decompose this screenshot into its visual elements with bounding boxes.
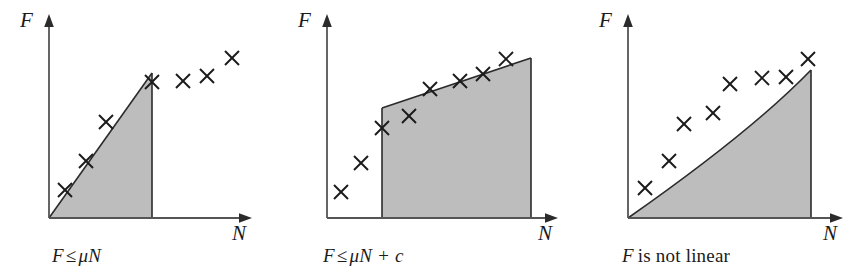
data-point (99, 115, 113, 129)
data-point (638, 181, 652, 195)
panel-1-caption-lhs: F (52, 245, 64, 266)
data-point (334, 185, 348, 199)
data-point (779, 70, 793, 84)
panel-1-y-axis-arrowhead (44, 14, 54, 27)
panel-1: F N F≤μN (0, 0, 290, 280)
data-point (662, 154, 676, 168)
data-point (755, 71, 769, 85)
data-point (723, 77, 737, 91)
data-point (200, 69, 214, 83)
panel-2: F N F≤μN + c (290, 0, 580, 280)
panel-1-plot (0, 0, 290, 240)
panel-3-y-axis-arrowhead (623, 14, 633, 27)
friction-models-figure: F N F≤μN (0, 0, 865, 280)
panel-2-plot (290, 0, 580, 240)
panel-1-caption-operator: ≤ (64, 245, 79, 266)
data-point (176, 74, 190, 88)
panel-1-caption: F≤μN (52, 245, 101, 267)
data-point (499, 52, 513, 66)
panel-2-caption-operator: ≤ (335, 245, 350, 266)
panel-3-x-axis-label: N (823, 221, 837, 246)
data-point (225, 51, 239, 65)
panel-1-y-axis-label: F (20, 8, 33, 33)
panel-1-x-axis-label: N (232, 221, 246, 246)
panel-2-caption: F≤μN + c (323, 245, 404, 267)
panel-3-caption-rhs: is not linear (638, 245, 730, 266)
panel-2-bound-region (382, 58, 531, 218)
data-point (354, 156, 368, 170)
panel-2-x-axis-label: N (538, 221, 552, 246)
panel-3-plot (580, 0, 865, 240)
panel-3-caption-lhs: F (622, 245, 634, 266)
panel-2-caption-lhs: F (323, 245, 335, 266)
panel-3-bound-region (628, 70, 811, 218)
panel-2-caption-rhs: μN + c (349, 245, 403, 266)
panel-2-y-axis-arrowhead (322, 14, 332, 27)
panel-3: F N Fis not linear (580, 0, 865, 280)
data-point (801, 52, 815, 66)
panel-3-caption: Fis not linear (622, 245, 730, 267)
panel-1-caption-rhs: μN (78, 245, 101, 266)
panel-2-y-axis-label: F (298, 8, 311, 33)
data-point (706, 106, 720, 120)
panel-3-y-axis-label: F (599, 8, 612, 33)
data-point (677, 117, 691, 131)
